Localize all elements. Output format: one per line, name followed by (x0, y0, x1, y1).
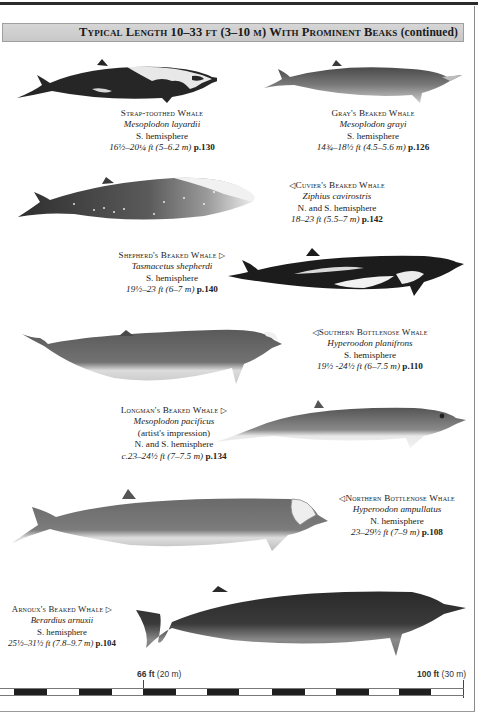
species-caption-strap-toothed: Strap-toothed Whale Mesoplodon layardii … (62, 108, 262, 154)
northern-bottlenose-whale-illustration (10, 485, 330, 555)
scale-bar (0, 688, 466, 698)
common-name: Southern Bottlenose Whale (319, 327, 428, 337)
section-title: Typical Length 10–33 ft (3–10 m) With Pr… (79, 25, 397, 39)
scientific-name: Berardius arnuxii (0, 615, 124, 626)
scale-label-100ft-bold: 100 ft (417, 669, 439, 679)
size: 23–29½ ft (7–9 m) (351, 527, 419, 537)
size: c.23–24½ ft (7–7.5 m) (121, 451, 203, 461)
size: 18–23 ft (5.5–7 m) (291, 214, 359, 224)
range: S. hemisphere (290, 350, 450, 361)
shepherds-beaked-whale-illustration (224, 246, 469, 301)
page-border-bottom (0, 711, 475, 712)
strap-toothed-whale-illustration (12, 55, 217, 105)
scientific-name: Hyperoodon planifrons (290, 338, 450, 349)
species-caption-southern-bottlenose: ◁Southern Bottlenose Whale Hyperoodon pl… (290, 327, 450, 373)
section-header: Typical Length 10–33 ft (3–10 m) With Pr… (2, 23, 464, 42)
scale-segment (79, 689, 112, 695)
range: S. hemisphere (268, 131, 478, 142)
size: 14¾–18½ ft (4.5–5.6 m) (317, 142, 406, 152)
species-caption-northern-bottlenose: ◁Northern Bottlenose Whale Hyperoodon am… (322, 493, 472, 539)
common-name: Shepherd's Beaked Whale (119, 250, 217, 260)
scale-segment (399, 689, 431, 695)
species-caption-grays: Gray's Beaked Whale Mesoplodon grayi S. … (268, 108, 478, 154)
common-name: Cuvier's Beaked Whale (296, 180, 385, 190)
page-ref[interactable]: p.126 (408, 142, 429, 152)
scientific-name: Mesoplodon layardii (62, 119, 262, 130)
species-caption-arnouxs: Arnoux's Beaked Whale ▷ Berardius arnuxi… (0, 604, 124, 650)
southern-bottlenose-whale-illustration (14, 326, 284, 386)
range: S. hemisphere (62, 131, 262, 142)
page-ref[interactable]: p.130 (194, 142, 215, 152)
scale-label-100ft-metric: (30 m) (442, 669, 467, 679)
scale-label-100ft: 100 ft (30 m) (417, 669, 466, 679)
page-ref[interactable]: p.140 (197, 284, 218, 294)
scale-label-66ft-metric: (20 m) (157, 669, 182, 679)
longmans-beaked-whale-illustration (214, 394, 470, 452)
size: 16½–20¼ ft (5–6.2 m) (109, 142, 191, 152)
page-ref[interactable]: p.104 (96, 638, 116, 648)
size: 19½–23 ft (6–7 m) (126, 284, 194, 294)
page-ref[interactable]: p.134 (205, 451, 226, 461)
range: N. hemisphere (322, 516, 472, 527)
common-name: Strap-toothed Whale (62, 108, 262, 119)
page-ref[interactable]: p.142 (362, 214, 383, 224)
cuviers-beaked-whale-illustration (14, 172, 259, 227)
range: N. and S. hemisphere (262, 203, 412, 214)
section-title-suffix: (continued) (401, 26, 458, 38)
scale-segment (336, 689, 369, 695)
common-name: Gray's Beaked Whale (268, 108, 478, 119)
page-ref[interactable]: p.110 (402, 361, 423, 371)
scientific-name: Ziphius cavirostris (262, 191, 412, 202)
species-caption-cuviers: ◁Cuvier's Beaked Whale Ziphius cavirostr… (262, 180, 412, 226)
common-name: Longman's Beaked Whale (121, 405, 219, 415)
common-name: Arnoux's Beaked Whale (12, 604, 104, 614)
top-rule (0, 2, 478, 5)
scale-label-66ft-bold: 66 ft (137, 669, 154, 679)
grays-beaked-whale-illustration (262, 55, 467, 105)
size: 19½ -24½ ft (6–7.5 m) (317, 361, 400, 371)
scientific-name: Hyperoodon ampullatus (322, 504, 472, 515)
arnouxs-beaked-whale-illustration (132, 582, 472, 662)
scale-segment (207, 689, 239, 695)
page-ref[interactable]: p.108 (422, 527, 443, 537)
scale-segment (272, 689, 305, 695)
common-name: Northern Bottlenose Whale (345, 493, 455, 503)
size: 25½–31½ ft (7.8–9.7 m) (8, 638, 93, 648)
arrow-right-icon: ▷ (106, 605, 112, 614)
scale-segment (14, 689, 47, 695)
range: S. hemisphere (0, 627, 124, 638)
scale-label-66ft: 66 ft (20 m) (137, 669, 181, 679)
scientific-name: Mesoplodon grayi (268, 119, 478, 130)
scale-segment (143, 689, 176, 695)
